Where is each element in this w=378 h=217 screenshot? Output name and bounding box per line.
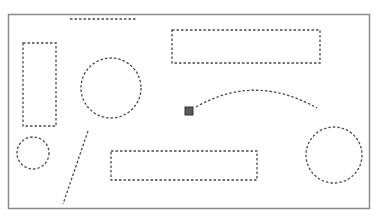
selection-handle[interactable] [185, 107, 193, 115]
bottom-rectangle[interactable] [111, 151, 257, 180]
top-wide-rectangle[interactable] [172, 30, 320, 63]
large-circle[interactable] [81, 58, 141, 118]
tall-rectangle[interactable] [23, 43, 56, 126]
arc-curve[interactable] [196, 90, 317, 108]
diagonal-line[interactable] [63, 131, 88, 204]
small-circle[interactable] [17, 137, 49, 169]
right-circle[interactable] [306, 127, 362, 183]
drawing-canvas[interactable] [0, 0, 378, 217]
